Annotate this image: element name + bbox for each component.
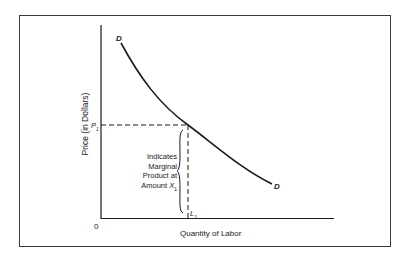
demand-diagram (0, 0, 408, 260)
annotation-variable-subscript: 1 (174, 185, 177, 191)
y-axis-label: Price (in Dollars) (80, 93, 90, 156)
annotation-line-last: Amount X1 (137, 181, 177, 194)
curve-label-end: D (274, 182, 280, 191)
annotation-line: Product at (137, 171, 177, 181)
quantity-marker-subscript: 1 (194, 214, 197, 220)
origin-label: 0 (94, 222, 98, 231)
marginal-product-annotation: Indicates Marginal Product at Amount X1 (137, 152, 177, 194)
price-marker-subscript: 1 (96, 126, 99, 132)
curve-label-start: D (116, 34, 122, 43)
price-marker-label: P1 (91, 121, 99, 132)
curly-brace (177, 130, 183, 213)
annotation-amount-word: Amount (141, 181, 167, 190)
x-axis-label: Quantity of Labor (180, 229, 241, 238)
quantity-marker-label: L1 (190, 209, 197, 220)
annotation-line: Marginal (137, 162, 177, 172)
annotation-line: Indicates (137, 152, 177, 162)
